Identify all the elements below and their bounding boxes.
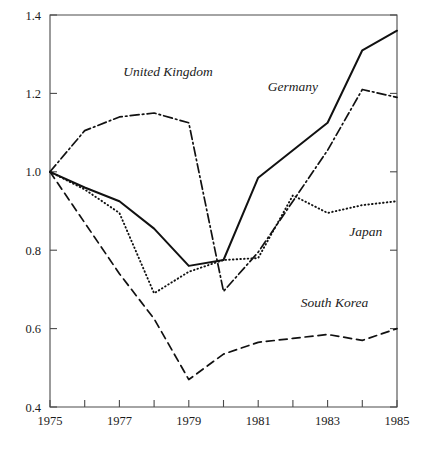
y-tick-label: 0.4 (25, 401, 41, 415)
axis-ticks (50, 15, 397, 407)
series-annotation-labels: GermanyUnited KingdomJapanSouth Korea (123, 64, 382, 310)
data-series-group (50, 31, 397, 380)
x-tick-label: 1979 (176, 414, 201, 428)
line-chart: 0.40.60.81.01.21.4 197519771979198119831… (0, 0, 430, 453)
x-tick-label: 1977 (107, 414, 132, 428)
y-tick-label: 0.6 (25, 322, 41, 336)
x-tick-label: 1983 (315, 414, 340, 428)
series-line-united-kingdom (50, 89, 397, 291)
chart-axes (50, 15, 397, 407)
y-tick-label: 0.8 (25, 244, 41, 258)
x-tick-label: 1985 (385, 414, 410, 428)
chart-canvas: 0.40.60.81.01.21.4 197519771979198119831… (0, 0, 430, 453)
series-line-south-korea (50, 172, 397, 380)
x-tick-label: 1981 (246, 414, 271, 428)
y-tick-label: 1.2 (25, 87, 41, 101)
series-line-japan (50, 172, 397, 294)
series-line-germany (50, 31, 397, 266)
x-axis-tick-labels: 197519771979198119831985 (38, 414, 410, 428)
y-tick-label: 1.4 (25, 9, 41, 23)
series-label-south-korea: South Korea (301, 295, 369, 310)
y-tick-label: 1.0 (25, 165, 41, 179)
plot-frame (50, 15, 397, 407)
series-label-united-kingdom: United Kingdom (123, 64, 213, 79)
series-label-germany: Germany (268, 79, 318, 94)
y-axis-tick-labels: 0.40.60.81.01.21.4 (25, 9, 41, 415)
x-tick-label: 1975 (38, 414, 63, 428)
series-label-japan: Japan (349, 224, 382, 239)
